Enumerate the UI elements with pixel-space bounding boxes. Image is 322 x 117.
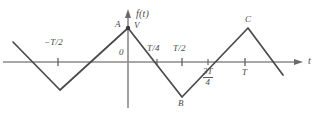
origin-label: 0 <box>119 48 124 57</box>
tick-label-3t-over-4: 3T 4 <box>203 67 213 88</box>
point-label-v: V <box>134 21 140 30</box>
tick-label-t-over-4: T/4 <box>147 44 160 53</box>
fraction-denominator: 4 <box>203 78 213 87</box>
point-label-b: B <box>178 99 184 108</box>
point-label-c: C <box>245 15 251 24</box>
waveform-figure: f(t) t 0 −T/2 T/4 T/2 3T 4 T A V B C <box>0 0 322 117</box>
y-axis-label: f(t) <box>136 9 149 19</box>
point-label-a: A <box>115 20 121 29</box>
y-axis <box>125 9 131 108</box>
x-axis-label: t <box>308 56 311 66</box>
tick-label-t-over-2: T/2 <box>173 44 186 53</box>
peak-a-marker <box>126 26 130 30</box>
tick-label-minus-t-over-2: −T/2 <box>44 38 63 47</box>
waveform-svg <box>0 0 322 117</box>
fraction-numerator: 3T <box>203 67 213 76</box>
tick-label-t: T <box>242 68 247 77</box>
